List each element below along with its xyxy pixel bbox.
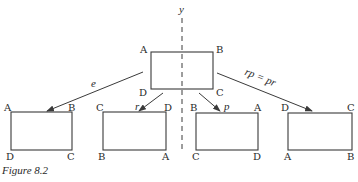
result-rp-label-br: B (347, 151, 354, 162)
result-p-label-tl: B (190, 102, 197, 113)
center-label-br: C (216, 87, 224, 98)
result-rp-label-tl: D (281, 102, 289, 113)
result-e-label-bl: D (6, 151, 14, 162)
figure-caption: Figure 8.2 (1, 164, 49, 176)
y-axis-label: y (178, 3, 184, 15)
result-e-label-tr: B (68, 102, 75, 113)
center-label-tl: A (139, 44, 148, 55)
symmetry-figure: y A B D C e r p rp = pr A B D C C D B A … (0, 0, 358, 182)
center-label-bl: D (139, 87, 147, 98)
result-rp-label-bl: A (283, 151, 292, 162)
result-p-label-tr: A (253, 102, 262, 113)
result-r-label-bl: B (98, 151, 105, 162)
result-e-label-tl: A (3, 102, 12, 113)
result-p-label-br: D (253, 151, 261, 162)
result-rectangle-rp (288, 113, 352, 150)
result-p-label-bl: C (192, 151, 200, 162)
center-label-tr: B (216, 44, 223, 55)
result-rectangle-p (196, 113, 258, 150)
result-rectangle-r (103, 112, 166, 150)
result-rectangle-e (11, 112, 72, 150)
result-r-label-tl: C (96, 102, 104, 113)
arrow-p-label: p (223, 100, 230, 112)
result-e-label-br: C (67, 151, 75, 162)
arrow-r-label: r (135, 100, 140, 112)
result-r-label-br: A (161, 151, 170, 162)
arrow-e-label: e (91, 77, 96, 89)
result-rp-label-tr: C (347, 102, 355, 113)
result-r-label-tr: D (164, 102, 172, 113)
